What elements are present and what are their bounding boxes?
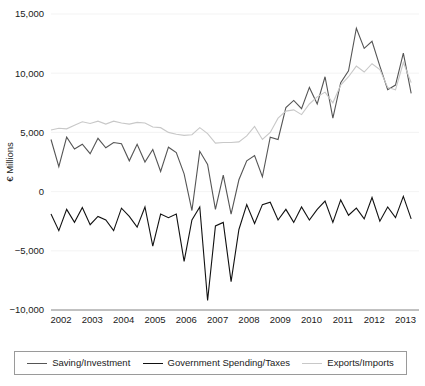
x-tick-label: 2009: [270, 314, 291, 325]
legend-item-saving-investment: Saving/Investment: [27, 358, 130, 368]
y-tick-label: 0: [39, 186, 44, 197]
y-tick-label: 15,000: [15, 8, 44, 19]
x-tick-label: 2005: [144, 314, 165, 325]
line-chart: −10,000−5,00005,00010,00015,000200220032…: [0, 0, 425, 386]
legend-swatch-exports-imports: [302, 363, 322, 364]
y-axis-title: € Millions: [4, 142, 15, 182]
legend-label-exports-imports: Exports/Imports: [327, 358, 394, 368]
x-tick-label: 2002: [50, 314, 71, 325]
series-line-exports-imports: [51, 63, 411, 144]
x-tick-label: 2004: [113, 314, 134, 325]
legend-swatch-saving-investment: [27, 363, 47, 364]
x-tick-label: 2007: [207, 314, 228, 325]
y-tick-label: 10,000: [15, 68, 44, 79]
legend-item-government-spending-taxes: Government Spending/Taxes: [143, 358, 291, 368]
chart-figure: −10,000−5,00005,00010,00015,000200220032…: [0, 0, 425, 386]
x-tick-label: 2006: [176, 314, 197, 325]
x-tick-label: 2010: [301, 314, 322, 325]
y-tick-label: −5,000: [15, 245, 44, 256]
x-tick-label: 2003: [82, 314, 103, 325]
series-line-saving-investment: [51, 28, 411, 214]
legend-label-saving-investment: Saving/Investment: [52, 358, 130, 368]
x-tick-label: 2008: [238, 314, 259, 325]
chart-legend: Saving/Investment Government Spending/Ta…: [14, 351, 407, 375]
legend-swatch-government-spending-taxes: [143, 363, 163, 364]
y-tick-label: −10,000: [9, 304, 44, 315]
x-tick-label: 2011: [333, 314, 353, 325]
x-tick-label: 2013: [395, 314, 416, 325]
legend-item-exports-imports: Exports/Imports: [302, 358, 394, 368]
x-tick-label: 2012: [364, 314, 385, 325]
y-tick-label: 5,000: [20, 127, 44, 138]
legend-label-government-spending-taxes: Government Spending/Taxes: [168, 358, 291, 368]
